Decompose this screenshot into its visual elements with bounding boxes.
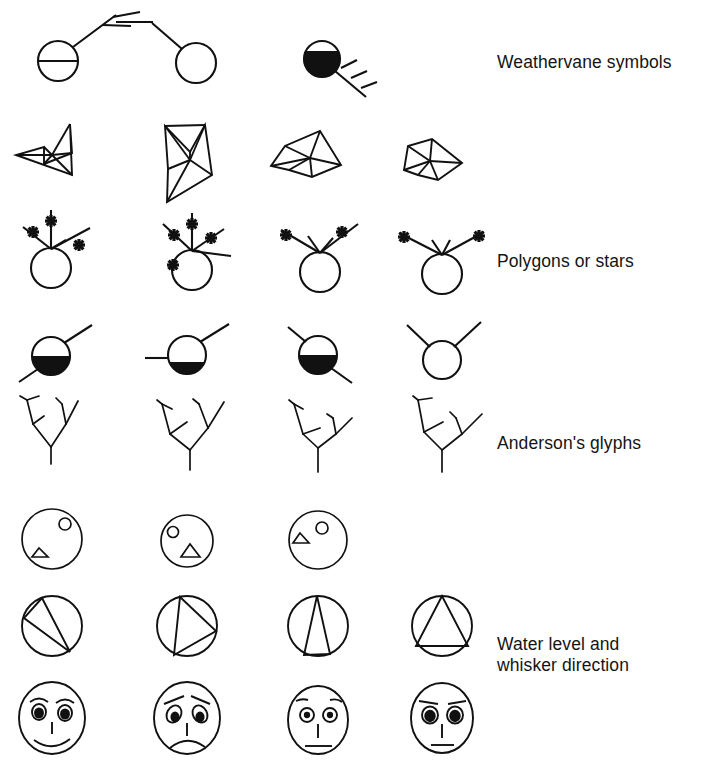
polygons-svg [0,112,500,202]
face-glyph-angry [411,683,473,753]
triangle-glyph-3 [288,596,348,656]
row-cells: Schematic cells [0,495,721,580]
anderson-glyphs [0,200,500,295]
waterlevel-glyphs [0,300,500,390]
weathervane-glyph-2 [116,22,216,83]
cell-glyph-2 [161,515,213,567]
tress-glyph-4 [413,396,482,472]
polygon-glyph-3 [271,131,341,177]
polygon-glyph-1 [16,124,72,175]
polygon-glyphs [0,112,500,202]
triangle-glyph-1 [22,596,82,656]
weathervane-glyph-3 [304,41,377,97]
row-polygons: Polygons or stars [0,112,721,202]
row-tress: Kleiner–Hartigan tress [0,392,721,490]
anderson-glyph-2 [163,213,231,290]
waterlevel-svg [0,300,500,390]
waterlevel-glyph-1 [19,325,92,382]
anderson-glyph-1 [23,210,90,288]
glyph-figure: Weathervane symbols [0,0,721,779]
triangles-svg [0,582,500,670]
tress-glyph-2 [157,399,224,470]
face-glyph-happy [19,682,85,754]
anderson-svg [0,200,500,295]
tress-svg [0,392,500,490]
polygon-glyph-4 [404,139,462,180]
polygon-glyph-2 [165,125,212,202]
row-anderson: Anderson's glyphs [0,200,721,295]
tress-glyph-3 [289,400,352,472]
row-faces: Chernoff's faces [0,668,721,779]
faces-svg [0,668,500,779]
cell-glyph-3 [289,511,347,569]
tress-glyph-1 [20,396,78,464]
weathervane-svg [0,0,500,110]
anderson-glyph-3 [280,224,358,292]
triangle-glyph-4 [412,596,472,656]
triangle-glyph-2 [157,596,217,656]
anderson-glyph-4 [398,230,485,294]
waterlevel-glyph-4 [407,322,481,379]
cell-glyphs [0,495,500,580]
row-label-weathervane: Weathervane symbols [497,52,672,73]
triangle-glyphs [0,582,500,670]
face-glyphs [0,668,500,779]
row-waterlevel: Water level and whisker direction [0,300,721,390]
waterlevel-glyph-3 [288,327,352,383]
waterlevel-glyph-2 [145,324,229,374]
row-weathervane: Weathervane symbols [0,0,721,110]
tress-glyphs [0,392,500,490]
cell-glyph-1 [22,509,82,569]
weathervane-glyphs [0,0,500,110]
face-glyph-sad [154,682,220,754]
face-glyph-neutral [288,686,348,754]
cells-svg [0,495,500,580]
row-triangles: Inscribed triangles [0,582,721,670]
